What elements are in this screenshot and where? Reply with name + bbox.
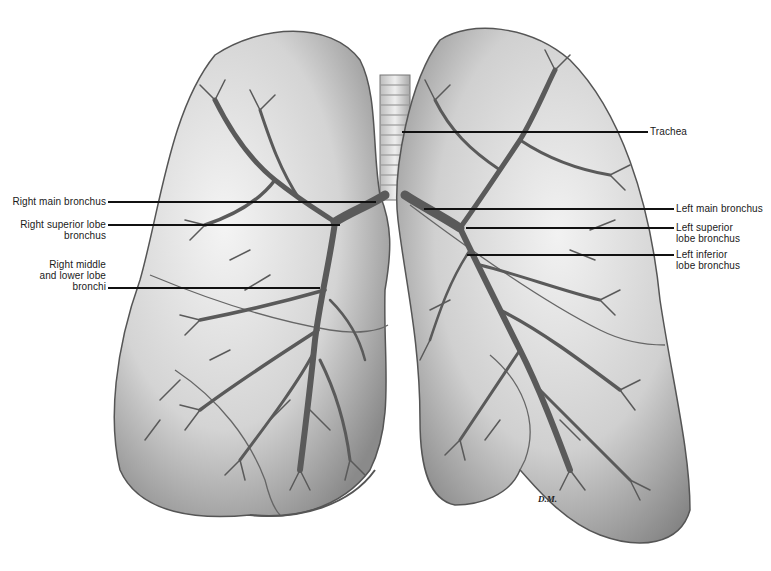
label-text: Right main bronchus — [12, 196, 106, 207]
label-text: Right superior lobe — [0, 219, 106, 230]
artist-signature: D.M. — [538, 494, 557, 504]
label-left-superior-lobe-bronchus: Left superior lobe bronchus — [676, 222, 740, 244]
label-text: lobe bronchus — [676, 260, 740, 271]
lungs-illustration — [0, 0, 771, 571]
left-lung-shape — [397, 28, 690, 543]
label-trachea: Trachea — [650, 126, 687, 137]
leader-right-main-bronchus — [108, 201, 376, 203]
label-text: lobe bronchus — [676, 233, 740, 244]
label-left-main-bronchus: Left main bronchus — [676, 203, 763, 214]
label-text: Left superior — [676, 222, 740, 233]
label-right-main-bronchus: Right main bronchus — [0, 196, 106, 207]
label-text: Right middle — [0, 259, 106, 270]
leader-left-inferior-lobe-bronchus — [467, 254, 674, 256]
label-right-superior-lobe-bronchus: Right superior lobe bronchus — [0, 219, 106, 241]
label-text: Trachea — [650, 126, 687, 137]
label-text: Left inferior — [676, 249, 740, 260]
leader-right-middle-lower-lobe-bronchi — [108, 287, 320, 289]
leader-right-superior-lobe-bronchus — [108, 224, 340, 226]
label-text: Left main bronchus — [676, 203, 763, 214]
leader-left-superior-lobe-bronchus — [466, 227, 674, 229]
leader-left-main-bronchus — [424, 208, 674, 210]
label-text: bronchi — [0, 281, 106, 292]
label-text: bronchus — [0, 230, 106, 241]
leader-trachea — [402, 131, 648, 133]
label-right-middle-lower-lobe-bronchi: Right middle and lower lobe bronchi — [0, 259, 106, 292]
label-text: and lower lobe — [0, 270, 106, 281]
label-left-inferior-lobe-bronchus: Left inferior lobe bronchus — [676, 249, 740, 271]
